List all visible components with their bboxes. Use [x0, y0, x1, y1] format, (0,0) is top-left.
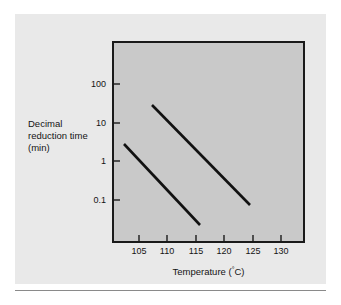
series-line-lower: [124, 144, 200, 225]
x-axis-title-tail: C): [234, 266, 244, 277]
y-axis-ticks: [113, 84, 120, 200]
y-tick-label-100: 100: [64, 79, 106, 89]
y-axis-title-line-3: (min): [28, 142, 114, 154]
y-tick-label-0-1: 0.1: [64, 195, 106, 205]
figure-bottom-rule: [15, 290, 326, 291]
y-tick-label-1: 1: [64, 156, 106, 166]
y-axis-title-line-2: reduction time: [28, 130, 114, 142]
y-axis-title: Decimal reduction time (min): [28, 118, 114, 154]
x-axis-title-text: Temperature (: [173, 266, 232, 277]
x-axis-ticks: [139, 235, 281, 242]
x-tick-label-130: 130: [264, 246, 298, 256]
y-axis-title-line-1: Decimal: [28, 118, 114, 130]
figure-root: 100 10 1 0.1 105 110 115 120 125 130 Dec…: [0, 0, 341, 305]
x-axis-title: Temperature (°C): [112, 266, 305, 277]
